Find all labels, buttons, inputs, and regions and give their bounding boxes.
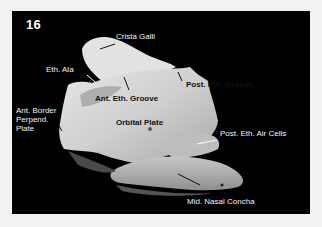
label-mid-nasal-concha: Mid. Nasal Concha bbox=[187, 197, 255, 206]
label-post-eth-air-cells: Post. Eth. Air Cells bbox=[220, 129, 286, 138]
label-orbital-plate: Orbital Plate bbox=[116, 118, 163, 127]
label-ant-border-perpend-plate: Ant. Border Perpend. Plate bbox=[16, 106, 56, 133]
label-eth-ala: Eth. Ala bbox=[46, 65, 74, 74]
specimen-photo-panel: 16 Crista Galli Eth. Ala Ant. Eth. Groov… bbox=[12, 11, 310, 214]
figure-number: 16 bbox=[26, 17, 41, 32]
label-crista-galli: Crista Galli bbox=[116, 32, 155, 41]
leader-lines bbox=[12, 11, 310, 214]
label-post-eth-groove: Post. Eth. Groove bbox=[186, 80, 253, 89]
label-ant-eth-groove: Ant. Eth. Groove bbox=[95, 94, 158, 103]
